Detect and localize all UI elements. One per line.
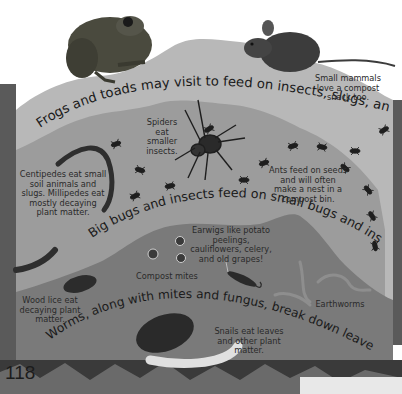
- left-sidebar: [0, 84, 16, 364]
- centipedes-caption: Centipedes eat small soil animals and sl…: [18, 170, 108, 218]
- compost-page: Frogs and toads may visit to feed on ins…: [0, 0, 402, 394]
- compost-mites-caption: Compost mites: [134, 272, 200, 282]
- ants-caption: Ants feed on seeds and will often make a…: [268, 166, 348, 204]
- wood-lice-caption: Wood lice eat decaying plant matter.: [18, 296, 82, 325]
- strip-highlight: [300, 377, 402, 394]
- earthworms-caption: Earthworms: [312, 300, 368, 310]
- snails-caption: Snails eat leaves and other plant matter…: [206, 327, 292, 356]
- page-number: 118: [5, 362, 35, 384]
- right-sidebar: [393, 100, 402, 345]
- spiders-caption: Spiders eat smaller insects.: [141, 118, 183, 156]
- small-mammals-caption: Small mammals love a compost snack too.: [306, 74, 390, 103]
- earwigs-caption: Earwigs like potato peelings, cauliflowe…: [188, 226, 274, 264]
